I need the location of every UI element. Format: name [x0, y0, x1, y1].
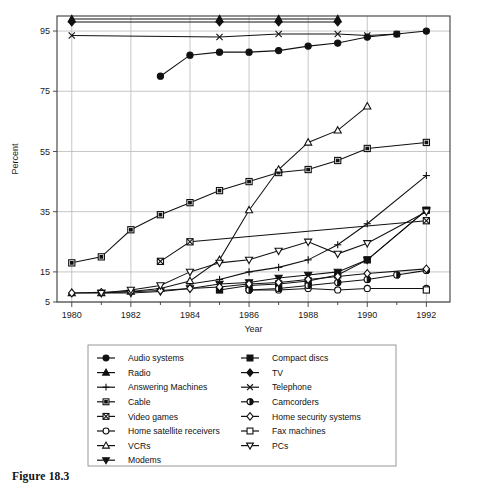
x-axis-tick-labels: 1980198219841986198819901992	[62, 310, 437, 320]
marker-open-square	[103, 399, 109, 405]
marker-plus	[246, 268, 253, 275]
legend-item-label: Telephone	[272, 382, 312, 392]
marker-open-square	[98, 254, 104, 260]
marker-half-circle	[247, 399, 253, 405]
plot-frame	[57, 16, 450, 302]
marker-open-square	[305, 166, 311, 172]
marker-open-triangle-down	[186, 269, 193, 275]
marker-open-circle	[335, 287, 341, 293]
y-tick-label: 75	[40, 86, 50, 96]
axis-ticks	[53, 31, 426, 307]
marker-crossed-square	[423, 218, 429, 224]
chart-legend: Audio systemsRadioAnswering MachinesCabl…	[88, 345, 396, 466]
marker-open-square	[335, 157, 341, 163]
marker-open-square	[246, 178, 252, 184]
marker-filled-circle	[157, 73, 163, 79]
y-tick-label: 15	[40, 267, 50, 277]
figure-container: 51535557595 1980198219841986198819901992…	[0, 0, 484, 495]
marker-open-square	[187, 200, 193, 206]
series-line	[160, 221, 426, 262]
x-tick-label: 1984	[180, 310, 200, 320]
marker-open-triangle-down	[334, 251, 341, 257]
marker-open-square	[157, 212, 163, 218]
grid-lines	[57, 16, 450, 302]
marker-crossed-square	[157, 258, 163, 264]
series-telephone	[69, 31, 400, 40]
marker-open-diamond	[364, 270, 371, 278]
y-tick-label: 95	[40, 26, 50, 36]
marker-filled-circle	[276, 48, 282, 54]
marker-open-triangle-up	[186, 277, 193, 283]
legend-item-label: Modems	[128, 455, 161, 465]
marker-open-square-small	[423, 287, 429, 293]
marker-filled-square	[247, 355, 253, 361]
x-tick-label: 1982	[121, 310, 141, 320]
y-axis-title: Percent	[10, 143, 20, 175]
marker-open-triangle-up	[334, 127, 341, 133]
marker-open-square	[216, 188, 222, 194]
x-tick-label: 1992	[416, 310, 436, 320]
marker-open-square-small	[247, 428, 253, 434]
legend-item-label: Radio	[128, 368, 151, 378]
marker-filled-circle	[216, 49, 222, 55]
x-axis-title: Year	[244, 324, 262, 334]
marker-open-square	[364, 145, 370, 151]
marker-open-circle	[103, 428, 109, 434]
series-line	[72, 34, 397, 37]
series-fax-machines	[423, 287, 429, 293]
marker-filled-square	[364, 257, 370, 263]
legend-item-label: Video games	[128, 412, 178, 422]
legend-item-label: Cable	[128, 397, 151, 407]
marker-filled-circle	[187, 52, 193, 58]
marker-filled-circle	[305, 43, 311, 49]
legend-item-label: TV	[272, 368, 283, 378]
x-tick-label: 1980	[62, 310, 82, 320]
marker-plus	[275, 264, 282, 271]
x-tick-label: 1986	[239, 310, 259, 320]
marker-plus	[334, 241, 341, 248]
y-tick-label: 5	[45, 297, 50, 307]
legend-item-label: Compact discs	[272, 353, 328, 363]
marker-open-circle	[364, 285, 370, 291]
series-line	[101, 212, 426, 293]
legend-item-label: Audio systems	[128, 353, 184, 363]
marker-open-square	[128, 227, 134, 233]
marker-open-square	[423, 139, 429, 145]
y-tick-label: 35	[40, 207, 50, 217]
legend-item-label: Fax machines	[272, 426, 326, 436]
marker-filled-circle	[103, 355, 109, 361]
x-tick-label: 1988	[298, 310, 318, 320]
legend-item-label: VCRs	[128, 441, 150, 451]
marker-filled-circle	[335, 40, 341, 46]
marker-open-square	[69, 260, 75, 266]
legend-item-label: Camcorders	[272, 397, 319, 407]
y-axis-tick-labels: 51535557595	[40, 26, 50, 307]
line-chart: 51535557595 1980198219841986198819901992…	[0, 0, 484, 470]
marker-half-circle	[394, 272, 400, 278]
marker-filled-circle	[423, 28, 429, 34]
marker-plus	[305, 256, 312, 263]
legend-item-label: Answering Machines	[128, 382, 207, 392]
y-tick-label: 55	[40, 147, 50, 157]
legend-item-label: Home satellite receivers	[128, 426, 220, 436]
marker-open-triangle-up	[364, 103, 371, 109]
series-line	[160, 31, 426, 76]
marker-crossed-square	[103, 413, 109, 419]
figure-caption: Figure 18.3	[12, 470, 70, 482]
series-video-games	[157, 218, 429, 265]
legend-item-label: PCs	[272, 441, 288, 451]
marker-filled-circle	[246, 49, 252, 55]
x-tick-label: 1990	[357, 310, 377, 320]
series-audio-systems	[157, 28, 429, 79]
marker-crossed-square	[187, 239, 193, 245]
legend-item-label: Home security systems	[272, 412, 361, 422]
